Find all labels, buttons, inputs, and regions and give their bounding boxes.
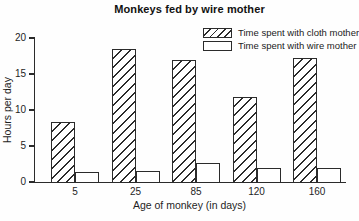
y-axis-tick (29, 37, 35, 38)
y-axis-tick-label: 15 (6, 68, 26, 80)
y-axis-tick (29, 181, 35, 182)
x-axis-tick-label: 25 (130, 186, 141, 197)
y-axis-tick (29, 73, 35, 74)
bar-cloth-mother-25-days (112, 49, 136, 182)
bar-cloth-mother-85-days (172, 60, 196, 182)
harlow-monkey-bar-chart: Monkeys fed by wire mother Time spent wi… (0, 0, 359, 221)
bar-wire-mother-85-days (196, 163, 220, 182)
y-axis-tick (29, 145, 35, 146)
bar-wire-mother-160-days (317, 168, 341, 182)
chart-title: Monkeys fed by wire mother (34, 3, 345, 15)
x-axis-tick-label: 85 (190, 186, 201, 197)
bar-cloth-mother-5-days (51, 122, 75, 182)
bar-cloth-mother-160-days (293, 58, 317, 182)
plot-area: 0510152052585120160 (34, 38, 346, 183)
bar-cloth-mother-120-days (233, 97, 257, 182)
y-axis-tick-label: 10 (6, 104, 26, 116)
bar-wire-mother-25-days (136, 171, 160, 182)
legend-label-cloth-mother: Time spent with cloth mother (238, 27, 359, 38)
bar-wire-mother-120-days (257, 168, 281, 182)
bar-wire-mother-5-days (75, 172, 99, 182)
x-axis-tick-label: 120 (248, 186, 265, 197)
y-axis-tick-label: 20 (6, 32, 26, 44)
x-axis-tick-label: 5 (72, 186, 78, 197)
y-axis-tick (29, 109, 35, 110)
y-axis-tick-label: 0 (6, 176, 26, 188)
x-axis-tick-label: 160 (309, 186, 326, 197)
y-axis-tick-label: 5 (6, 140, 26, 152)
x-axis-title: Age of monkey (in days) (34, 199, 345, 211)
cloth-mother-hatched-swatch (203, 28, 232, 38)
